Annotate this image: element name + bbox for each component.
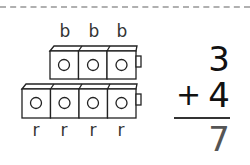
top-cube-train — [50, 46, 141, 79]
cube-label-b: b — [112, 23, 132, 40]
cube-label-r: r — [111, 122, 131, 139]
cube-label-r: r — [54, 122, 74, 139]
addend-2: 4 — [190, 78, 230, 112]
sum-answer: 7 — [190, 122, 230, 156]
cube-label-r: r — [83, 122, 103, 139]
cube-label-b: b — [84, 23, 104, 40]
addend-1: 3 — [190, 42, 230, 76]
bottom-cube-train — [22, 84, 141, 118]
cube-label-r: r — [26, 122, 46, 139]
cube-label-b: b — [55, 23, 75, 40]
